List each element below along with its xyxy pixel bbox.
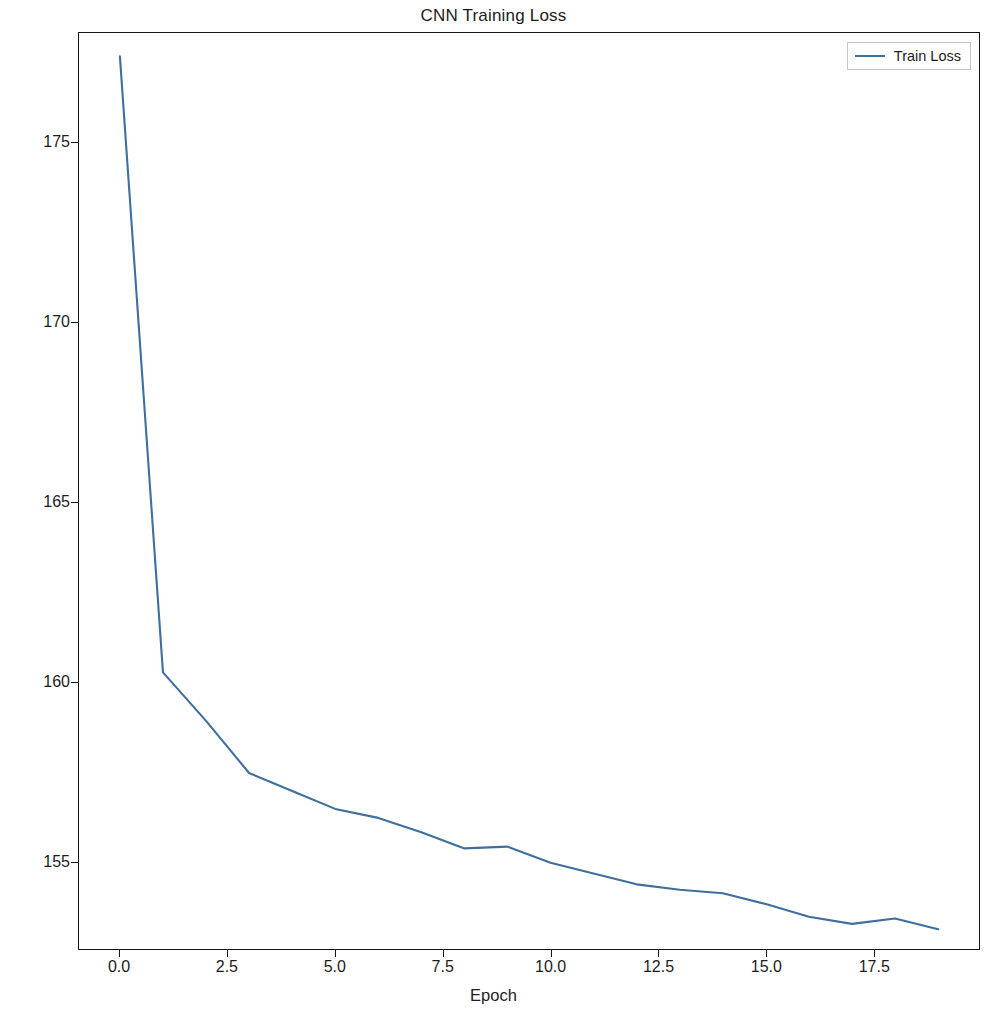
x-tick-mark [335, 950, 336, 957]
chart-figure: CNN Training Loss 155160165170175 Loss E… [0, 0, 987, 1019]
x-tick-label: 2.5 [216, 958, 238, 976]
x-tick-mark [551, 950, 552, 957]
x-tick-mark [874, 950, 875, 957]
y-tick-mark [71, 862, 78, 863]
x-tick-label: 5.0 [324, 958, 346, 976]
y-tick-label: 160 [43, 673, 70, 691]
y-tick-mark [71, 142, 78, 143]
chart-legend: Train Loss [847, 42, 971, 70]
y-tick-label: 155 [43, 853, 70, 871]
y-tick-mark [71, 322, 78, 323]
y-tick-label: 170 [43, 313, 70, 331]
y-axis-tick-labels: 155160165170175 [0, 0, 70, 1019]
train-loss-line [120, 56, 938, 929]
x-tick-mark [443, 950, 444, 957]
legend-line-swatch-train-loss [855, 55, 885, 57]
y-tick-label: 175 [43, 133, 70, 151]
x-tick-mark [119, 950, 120, 957]
y-tick-mark [71, 502, 78, 503]
x-tick-mark [658, 950, 659, 957]
x-axis-label: Epoch [0, 986, 987, 1005]
x-tick-mark [766, 950, 767, 957]
chart-title: CNN Training Loss [0, 6, 987, 26]
x-tick-label: 7.5 [432, 958, 454, 976]
y-tick-label: 165 [43, 493, 70, 511]
x-tick-label: 17.5 [859, 958, 890, 976]
x-tick-label: 0.0 [108, 958, 130, 976]
x-tick-label: 10.0 [535, 958, 566, 976]
plot-area: Train Loss [78, 32, 980, 950]
x-tick-mark [227, 950, 228, 957]
x-tick-label: 12.5 [643, 958, 674, 976]
line-chart-svg [79, 33, 979, 949]
y-tick-mark [71, 682, 78, 683]
legend-label-train-loss: Train Loss [894, 48, 961, 64]
x-tick-label: 15.0 [751, 958, 782, 976]
